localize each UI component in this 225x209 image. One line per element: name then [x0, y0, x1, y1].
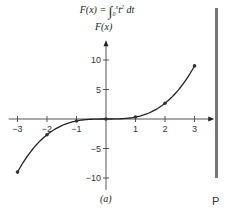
y-tick-label: −10: [86, 173, 101, 183]
plot-svg: −3−2−1123105−5−10: [0, 0, 225, 209]
data-point: [163, 101, 167, 105]
y-tick-label: 10: [91, 55, 101, 65]
side-letter: P: [212, 195, 219, 207]
data-point: [75, 119, 79, 123]
x-tick-label: 2: [162, 124, 167, 134]
x-axis-arrow-icon: [208, 117, 214, 122]
data-point: [104, 117, 108, 121]
chart-area: F(x) = ∫0xt2 dt F(x) −3−2−1123105−5−10 (…: [0, 0, 225, 209]
data-point: [134, 115, 138, 119]
x-tick-label: −3: [12, 124, 22, 134]
y-tick-label: 5: [96, 85, 101, 95]
x-tick-label: 1: [133, 124, 138, 134]
data-point: [193, 64, 197, 68]
figure-caption: (a): [100, 193, 112, 204]
y-axis-arrow-icon: [104, 40, 109, 46]
page-divider-bar: [215, 8, 218, 178]
x-tick-label: −1: [71, 124, 81, 134]
x-tick-label: 3: [192, 124, 197, 134]
data-point: [45, 133, 49, 137]
y-tick-label: −5: [91, 144, 101, 154]
data-point: [16, 170, 20, 174]
